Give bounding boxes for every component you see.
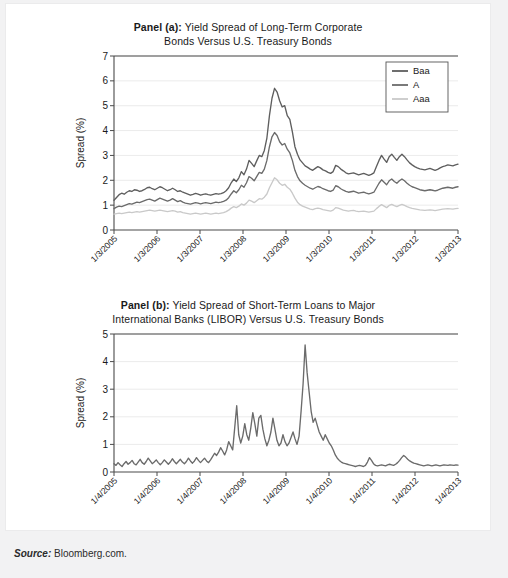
xtick-label: 1/4/2013 xyxy=(433,475,464,506)
panel-b-title-prefix: Panel (b): xyxy=(121,299,170,311)
figure-card: Panel (a): Yield Spread of Long-Term Cor… xyxy=(6,4,490,530)
xtick-label: 1/4/2009 xyxy=(261,475,292,506)
xtick-label: 1/4/2011 xyxy=(347,475,377,505)
ytick-label: 3 xyxy=(102,150,108,161)
ytick-label: 3 xyxy=(102,384,108,395)
ytick-label: 4 xyxy=(102,356,108,367)
panel-b-title-line1: Yield Spread of Short-Term Loans to Majo… xyxy=(170,299,376,311)
xtick-label: 1/4/2006 xyxy=(132,475,163,506)
xtick-label: 1/3/2012 xyxy=(390,233,421,264)
series-line-libor-spread xyxy=(114,345,458,466)
ytick-label: 2 xyxy=(102,175,108,186)
panel-a-title-prefix: Panel (a): xyxy=(134,21,182,33)
ytick-label: 5 xyxy=(102,100,108,111)
panel-b: Panel (b): Yield Spread of Short-Term Lo… xyxy=(6,294,490,530)
panel-b-title: Panel (b): Yield Spread of Short-Term Lo… xyxy=(6,294,490,326)
xtick-label: 1/4/2007 xyxy=(175,475,206,506)
xtick-label: 1/3/2010 xyxy=(304,233,335,264)
ytick-label: 1 xyxy=(102,200,108,211)
xtick-label: 1/3/2007 xyxy=(175,233,206,264)
panel-a-title-line2: Bonds Versus U.S. Treasury Bonds xyxy=(6,34,490,48)
panel-a-svg: 01234567Spread (%)1/3/20051/3/20061/3/20… xyxy=(6,48,490,293)
y-axis-title: Spread (%) xyxy=(75,378,86,429)
ytick-label: 5 xyxy=(102,329,108,340)
xtick-label: 1/4/2012 xyxy=(390,475,421,506)
panel-a-title-line1: Yield Spread of Long-Term Corporate xyxy=(182,21,362,33)
panel-b-svg: 012345Spread (%)1/4/20051/4/20061/4/2007… xyxy=(6,326,490,531)
xtick-label: 1/3/2011 xyxy=(347,233,377,263)
xtick-label: 1/3/2013 xyxy=(433,233,464,264)
panel-a-chart: 01234567Spread (%)1/3/20051/3/20061/3/20… xyxy=(6,48,490,293)
ytick-label: 0 xyxy=(102,467,108,478)
source-text: Bloomberg.com. xyxy=(51,548,127,559)
panel-a: Panel (a): Yield Spread of Long-Term Cor… xyxy=(6,4,490,294)
panel-a-title: Panel (a): Yield Spread of Long-Term Cor… xyxy=(6,4,490,48)
xtick-label: 1/3/2008 xyxy=(218,233,249,264)
ytick-label: 0 xyxy=(102,225,108,236)
ytick-label: 1 xyxy=(102,439,108,450)
ytick-label: 6 xyxy=(102,75,108,86)
xtick-label: 1/4/2008 xyxy=(218,475,249,506)
legend-label-baa: Baa xyxy=(413,65,430,76)
legend-label-a: A xyxy=(413,79,420,90)
legend-label-aaa: Aaa xyxy=(413,93,430,104)
source-note: Source: Bloomberg.com. xyxy=(14,548,127,559)
series-line-a xyxy=(114,133,458,209)
panel-b-chart: 012345Spread (%)1/4/20051/4/20061/4/2007… xyxy=(6,326,490,531)
ytick-label: 4 xyxy=(102,125,108,136)
xtick-label: 1/3/2006 xyxy=(132,233,163,264)
y-axis-title: Spread (%) xyxy=(75,118,86,169)
panel-b-title-line2: International Banks (LIBOR) Versus U.S. … xyxy=(6,312,490,326)
xtick-label: 1/3/2005 xyxy=(89,233,120,264)
ytick-label: 7 xyxy=(102,51,108,62)
ytick-label: 2 xyxy=(102,411,108,422)
xtick-label: 1/4/2005 xyxy=(89,475,120,506)
xtick-label: 1/4/2010 xyxy=(304,475,335,506)
xtick-label: 1/3/2009 xyxy=(261,233,292,264)
source-label: Source: xyxy=(14,548,51,559)
